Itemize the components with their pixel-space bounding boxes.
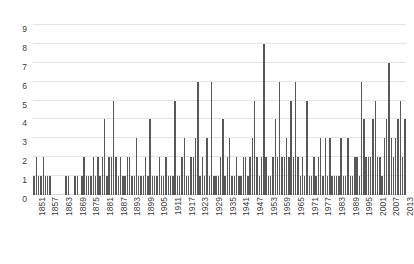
bar bbox=[295, 82, 296, 195]
bar bbox=[322, 176, 323, 195]
bar bbox=[365, 157, 366, 195]
bar bbox=[393, 157, 394, 195]
bar bbox=[111, 157, 112, 195]
x-tick-label-1935: 1935 bbox=[229, 197, 238, 216]
x-tick-label-1989: 1989 bbox=[352, 197, 361, 216]
bar bbox=[329, 138, 330, 195]
bar bbox=[195, 138, 196, 195]
x-tick-label-1881: 1881 bbox=[106, 197, 115, 216]
bar bbox=[315, 176, 316, 195]
bar bbox=[370, 157, 371, 195]
bar bbox=[343, 176, 344, 195]
bar bbox=[161, 176, 162, 195]
bar bbox=[404, 119, 405, 195]
bar bbox=[381, 176, 382, 195]
bar bbox=[395, 138, 396, 195]
bar bbox=[279, 82, 280, 195]
bar bbox=[47, 176, 48, 195]
bar bbox=[77, 176, 78, 195]
bar bbox=[293, 157, 294, 195]
bar bbox=[375, 101, 376, 195]
bar bbox=[354, 157, 355, 195]
x-tick-label-1911: 1911 bbox=[174, 197, 183, 215]
bar bbox=[145, 157, 146, 195]
x-tick-label-1971: 1971 bbox=[311, 197, 320, 216]
bar bbox=[256, 157, 257, 195]
bar bbox=[297, 157, 298, 195]
bar bbox=[397, 119, 398, 195]
bar bbox=[368, 157, 369, 195]
bar bbox=[243, 157, 244, 195]
bar bbox=[377, 157, 378, 195]
bar bbox=[86, 176, 87, 195]
bar bbox=[124, 176, 125, 195]
bar bbox=[215, 176, 216, 195]
bar bbox=[177, 176, 178, 195]
bar bbox=[309, 176, 310, 195]
bar bbox=[356, 157, 357, 195]
bar bbox=[163, 176, 164, 195]
bar bbox=[224, 176, 225, 195]
bar bbox=[97, 157, 98, 195]
bar bbox=[247, 176, 248, 195]
bar bbox=[136, 138, 137, 195]
bar bbox=[272, 157, 273, 195]
bar bbox=[90, 176, 91, 195]
bar bbox=[104, 119, 105, 195]
bar bbox=[140, 176, 141, 195]
bar bbox=[384, 138, 385, 195]
x-tick-label-1875: 1875 bbox=[92, 197, 101, 216]
bar bbox=[275, 119, 276, 195]
bar bbox=[206, 138, 207, 195]
bar bbox=[147, 176, 148, 195]
bar bbox=[320, 138, 321, 195]
bar bbox=[234, 176, 235, 195]
x-tick-label-1953: 1953 bbox=[270, 197, 279, 216]
bar bbox=[263, 44, 264, 195]
bar bbox=[379, 157, 380, 195]
bar bbox=[391, 138, 392, 195]
bar bbox=[245, 157, 246, 195]
x-tick-label-1863: 1863 bbox=[65, 197, 74, 216]
bar bbox=[49, 176, 50, 195]
bar bbox=[127, 157, 128, 195]
bar bbox=[231, 176, 232, 195]
x-tick-label-2007: 2007 bbox=[392, 197, 401, 216]
bar bbox=[218, 176, 219, 195]
x-tick-label-1917: 1917 bbox=[188, 197, 197, 216]
x-tick-label-2013: 2013 bbox=[406, 197, 414, 216]
bar bbox=[300, 176, 301, 195]
bar bbox=[304, 176, 305, 195]
bar bbox=[229, 138, 230, 195]
x-tick-label-1869: 1869 bbox=[79, 197, 88, 216]
bar bbox=[388, 63, 389, 195]
bar bbox=[43, 157, 44, 195]
bar bbox=[265, 157, 266, 195]
bar bbox=[286, 138, 287, 195]
bar bbox=[186, 176, 187, 195]
x-tick-label-1923: 1923 bbox=[201, 197, 210, 216]
y-axis: 0123456789 bbox=[0, 25, 27, 195]
bar bbox=[106, 176, 107, 195]
bar bbox=[249, 157, 250, 195]
plot-area bbox=[33, 25, 406, 195]
bar bbox=[204, 176, 205, 195]
bar bbox=[331, 176, 332, 195]
bar bbox=[400, 101, 401, 195]
bar bbox=[95, 176, 96, 195]
bar bbox=[181, 157, 182, 195]
x-tick-label-1977: 1977 bbox=[324, 197, 333, 216]
x-axis: 1851185718631869187518811887189318991905… bbox=[33, 197, 406, 261]
x-tick-label-1929: 1929 bbox=[215, 197, 224, 216]
bar bbox=[350, 176, 351, 195]
bar bbox=[134, 176, 135, 195]
bar bbox=[170, 176, 171, 195]
bar bbox=[252, 138, 253, 195]
bar bbox=[211, 82, 212, 195]
bar bbox=[318, 157, 319, 195]
bar bbox=[154, 176, 155, 195]
bar bbox=[220, 157, 221, 195]
bar bbox=[311, 176, 312, 195]
bar bbox=[81, 176, 82, 195]
bar bbox=[238, 176, 239, 195]
